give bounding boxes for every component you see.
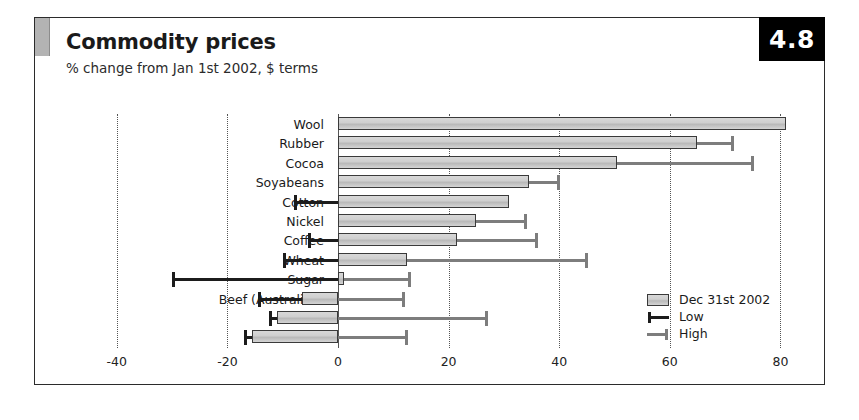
- whisker-low-cap: [269, 311, 272, 326]
- whisker-low-cap: [308, 233, 311, 248]
- whisker-high-cap: [524, 214, 527, 229]
- bar: [302, 292, 338, 305]
- gridline-80: [780, 114, 781, 348]
- whisker-high-cap: [585, 253, 588, 268]
- bar: [338, 253, 407, 266]
- chart-legend: Dec 31st 2002 Low High: [647, 291, 770, 342]
- whisker-left-icon: [647, 311, 669, 323]
- whisker-low-cap: [258, 292, 261, 307]
- bar: [338, 117, 786, 130]
- bar: [277, 311, 338, 324]
- whisker-high-cap: [485, 311, 488, 326]
- bar: [338, 195, 509, 208]
- whisker-high-cap: [751, 156, 754, 171]
- whisker-high-line: [457, 239, 537, 242]
- whisker-high-line: [476, 220, 526, 223]
- whisker-high-line: [697, 142, 733, 145]
- whisker-high-line: [529, 181, 559, 184]
- whisker-low-line: [283, 259, 338, 262]
- x-tick-label: -20: [217, 354, 237, 369]
- legend-label: Dec 31st 2002: [679, 292, 770, 307]
- whisker-low-cap: [294, 195, 297, 210]
- category-label: Wool: [294, 117, 324, 132]
- whisker-low-cap: [283, 253, 286, 268]
- whisker-low-line: [172, 278, 338, 281]
- chart-figure: 4.8 Commodity prices % change from Jan 1…: [34, 17, 825, 385]
- whisker-low-cap: [244, 330, 247, 345]
- x-tick-label: 80: [772, 354, 788, 369]
- whisker-high-line: [338, 317, 487, 320]
- category-label: Rubber: [279, 136, 324, 151]
- x-tick-label: 40: [551, 354, 567, 369]
- whisker-high-line: [338, 298, 404, 301]
- gridline--20: [227, 114, 228, 348]
- whisker-high-cap: [402, 292, 405, 307]
- bar: [338, 136, 697, 149]
- whisker-high-line: [344, 278, 410, 281]
- category-label: Soyabeans: [256, 175, 324, 190]
- whisker-high-cap: [731, 136, 734, 151]
- whisker-high-cap: [557, 175, 560, 190]
- whisker-right-icon: [647, 328, 669, 340]
- whisker-high-line: [407, 259, 587, 262]
- x-tick-label: 20: [441, 354, 457, 369]
- bar: [338, 272, 344, 285]
- whisker-low-line: [294, 201, 338, 204]
- legend-label: High: [679, 326, 708, 341]
- bar-swatch-icon: [647, 294, 669, 306]
- whisker-high-line: [338, 336, 407, 339]
- whisker-low-cap: [172, 272, 175, 287]
- x-tick-label: 0: [334, 354, 342, 369]
- x-tick-label: 60: [662, 354, 678, 369]
- category-label: Cocoa: [285, 156, 324, 171]
- whisker-high-cap: [408, 272, 411, 287]
- category-label: Nickel: [286, 214, 324, 229]
- whisker-high-line: [617, 162, 752, 165]
- whisker-high-cap: [405, 330, 408, 345]
- bar: [338, 175, 529, 188]
- legend-item-dec31: Dec 31st 2002: [647, 291, 770, 308]
- whisker-low-line: [258, 298, 302, 301]
- bar: [338, 214, 476, 227]
- legend-item-high: High: [647, 325, 770, 342]
- bar: [252, 330, 338, 343]
- whisker-low-line: [308, 239, 338, 242]
- whisker-high-cap: [535, 233, 538, 248]
- bar: [338, 156, 617, 169]
- x-tick-label: -40: [107, 354, 127, 369]
- legend-label: Low: [679, 309, 704, 324]
- gridline--40: [117, 114, 118, 348]
- legend-item-low: Low: [647, 308, 770, 325]
- bar: [338, 233, 457, 246]
